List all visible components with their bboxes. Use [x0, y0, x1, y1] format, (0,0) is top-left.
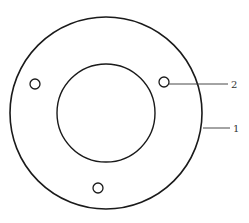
mounting-hole-right	[159, 77, 169, 87]
callout-label-1: 1	[233, 123, 239, 134]
center-bore	[57, 64, 155, 162]
outer-disc-edge	[10, 17, 202, 209]
disc-diagram: 2 1	[0, 0, 249, 223]
mounting-hole-left	[30, 79, 40, 89]
mounting-hole-bottom	[93, 183, 103, 193]
callout-label-2: 2	[231, 79, 237, 90]
